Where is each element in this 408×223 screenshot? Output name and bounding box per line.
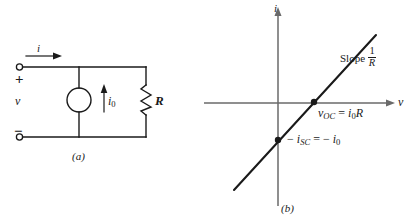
voc-value-tail: R	[356, 106, 363, 120]
isc-value-sub: 0	[336, 137, 340, 147]
voc-equals: =	[335, 106, 348, 120]
isc-annotation: − iSC = − i0	[287, 133, 340, 147]
slope-annotation-text: Slope	[340, 52, 365, 64]
isc-label-sub: SC	[300, 137, 310, 147]
isc-equals: = −	[310, 132, 333, 146]
terminal-top	[16, 64, 22, 70]
caption-a: (a)	[72, 151, 85, 162]
current-arrow-head	[53, 53, 62, 60]
i-axis-label: i	[274, 3, 277, 14]
v-axis-arrowhead	[386, 100, 395, 107]
figure-container: i + v − i0 R (a) i v Slope 1	[0, 0, 408, 223]
resistor-label: R	[155, 94, 164, 107]
source-current-label-sub: 0	[111, 99, 115, 109]
voc-annotation: vOC = i0R	[318, 107, 363, 121]
resistor-symbol	[141, 85, 151, 115]
isc-label-lead: −	[287, 132, 297, 146]
source-current-arrow-head	[101, 84, 108, 93]
terminal-minus-sign: −	[14, 124, 23, 139]
isc-intercept-dot	[275, 137, 281, 143]
slope-fraction: 1 R	[368, 46, 376, 69]
source-current-label: i0	[108, 95, 116, 109]
circuit-diagram-a	[0, 0, 204, 223]
v-axis-label: v	[398, 96, 403, 108]
caption-b: (b)	[281, 203, 294, 214]
voc-label-sub: OC	[323, 111, 335, 121]
slope-fraction-denominator: R	[368, 58, 376, 69]
circuit-voltage-label: v	[15, 95, 20, 107]
terminal-plus-sign: +	[15, 72, 24, 87]
iv-characteristic-plot-b	[204, 0, 408, 223]
current-source-symbol	[67, 88, 91, 112]
slope-annotation: Slope 1 R	[340, 46, 376, 69]
circuit-current-label: i	[37, 43, 40, 54]
voc-intercept-dot	[311, 99, 317, 105]
